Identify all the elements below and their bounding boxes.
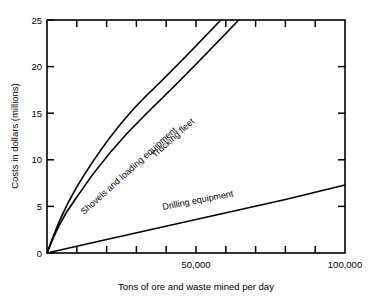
chart-container: 0 5 10 15 20 25 — [0, 0, 373, 302]
y-ticklabel-15: 15 — [31, 108, 42, 119]
y-axis-title: Costs in dollars (millions) — [9, 83, 20, 189]
x-axis-title: Tons of ore and waste mined per day — [118, 281, 274, 292]
x-ticklabel-50000: 50,000 — [181, 259, 210, 270]
y-ticklabel-5: 5 — [37, 201, 42, 212]
chart-background — [0, 0, 373, 302]
y-ticklabel-0: 0 — [37, 248, 42, 259]
y-ticklabel-20: 20 — [31, 61, 42, 72]
x-ticklabel-100000: 100,000 — [328, 259, 362, 270]
y-ticklabel-25: 25 — [31, 15, 42, 26]
y-ticklabel-10: 10 — [31, 154, 42, 165]
cost-vs-tonnage-chart: 0 5 10 15 20 25 — [0, 0, 373, 302]
